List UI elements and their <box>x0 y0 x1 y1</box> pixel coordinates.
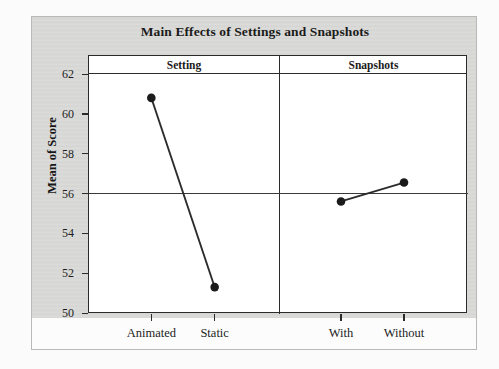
y-tick-label: 58 <box>40 148 74 160</box>
y-tick-label: 52 <box>40 267 74 279</box>
x-tick-label: Static <box>160 326 270 341</box>
x-tick-mark <box>151 314 152 321</box>
panel-divider <box>279 56 280 314</box>
y-tick-label: 62 <box>40 68 74 80</box>
chart-page: Main Effects of Settings and Snapshots M… <box>0 0 499 369</box>
x-tick-mark <box>403 314 404 321</box>
panel-title-snapshots: Snapshots <box>279 57 468 73</box>
plot-area: Setting Snapshots <box>88 55 467 313</box>
chart-title: Main Effects of Settings and Snapshots <box>40 24 470 40</box>
y-tick-label: 54 <box>40 227 74 239</box>
x-tick-mark <box>214 314 215 321</box>
x-tick-label: Without <box>349 326 459 341</box>
panel-title-setting: Setting <box>89 57 279 73</box>
x-tick-mark <box>340 314 341 321</box>
y-tick-label: 50 <box>40 307 74 319</box>
reference-line-56 <box>89 193 468 194</box>
y-tick-label: 56 <box>40 188 74 200</box>
panel-header-band: Setting Snapshots <box>89 56 466 74</box>
y-tick-label: 60 <box>40 108 74 120</box>
